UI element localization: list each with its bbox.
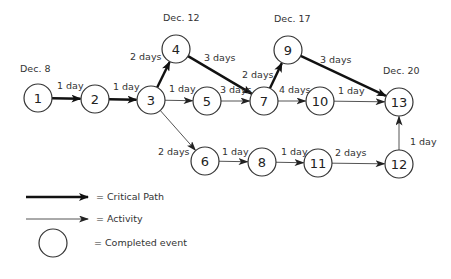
- event-node-8: 8: [248, 148, 276, 176]
- edge-duration-label-8-11: 1 day: [281, 146, 308, 157]
- event-node-13: 13: [385, 88, 413, 116]
- critical-path-arrow-3-4: [157, 62, 169, 87]
- edge-duration-label-3-5: 1 day: [169, 83, 196, 94]
- event-number: 3: [147, 93, 155, 108]
- event-node-6: 6: [191, 147, 219, 175]
- edge-duration-label-4-7: 3 days: [204, 52, 236, 63]
- event-node-10: 10: [306, 87, 334, 115]
- event-node-11: 11: [304, 149, 332, 177]
- legend-completed-event-circle-icon: [39, 229, 67, 257]
- event-number: 5: [203, 94, 211, 109]
- legend-completed-event-label: = Completed event: [94, 237, 187, 248]
- edge-duration-label-7-10: 4 days: [279, 84, 311, 95]
- legend-activity-label: = Activity: [96, 213, 143, 224]
- event-number: 7: [260, 94, 268, 109]
- dates-layer: Dec. 8Dec. 12Dec. 17Dec. 20: [20, 12, 420, 76]
- edge-duration-label-3-4: 2 days: [130, 51, 162, 62]
- date-label: Dec. 20: [383, 65, 420, 76]
- event-number: 10: [312, 94, 329, 109]
- edge-duration-label-7-9: 2 days: [242, 69, 274, 80]
- event-node-12: 12: [385, 150, 413, 178]
- critical-path-arrow-1-2: [52, 98, 81, 99]
- event-node-4: 4: [162, 35, 190, 63]
- edge-duration-label-10-13: 1 day: [338, 85, 365, 96]
- edge-duration-label-2-3: 1 day: [113, 81, 140, 92]
- event-number: 8: [258, 155, 266, 170]
- date-label: Dec. 12: [163, 12, 200, 23]
- edge-duration-label-12-13: 1 day: [410, 136, 437, 147]
- event-node-3: 3: [137, 86, 165, 114]
- activity-arrow-11-12: [332, 163, 385, 164]
- edge-duration-label-6-8: 1 day: [222, 146, 249, 157]
- event-node-7: 7: [250, 87, 278, 115]
- event-number: 6: [201, 154, 209, 169]
- event-number: 11: [310, 156, 327, 171]
- event-node-2: 2: [81, 85, 109, 113]
- event-number: 2: [91, 92, 99, 107]
- edge-labels-layer: 1 day1 day2 days3 days1 day3 days2 days2…: [57, 51, 437, 158]
- legend: = Critical Path = Activity = Completed e…: [26, 191, 187, 257]
- activity-arrow-6-8: [219, 161, 248, 162]
- edge-duration-label-11-12: 2 days: [335, 147, 367, 158]
- event-number: 13: [391, 95, 408, 110]
- event-number: 4: [172, 42, 180, 57]
- date-label: Dec. 8: [20, 63, 50, 74]
- edge-duration-label-1-2: 1 day: [57, 80, 84, 91]
- activity-arrow-10-13: [334, 101, 385, 102]
- event-node-1: 1: [24, 84, 52, 112]
- legend-critical-path-label: = Critical Path: [96, 191, 164, 202]
- activity-arrow-3-6: [160, 110, 195, 150]
- event-number: 1: [34, 91, 42, 106]
- event-number: 12: [391, 157, 408, 172]
- edge-duration-label-5-7: 3 days: [220, 84, 252, 95]
- event-node-9: 9: [274, 36, 302, 64]
- date-label: Dec. 17: [274, 13, 311, 24]
- event-number: 9: [284, 43, 292, 58]
- pert-diagram: 1 day1 day2 days3 days1 day3 days2 days2…: [0, 0, 451, 279]
- edge-duration-label-9-13: 3 days: [320, 54, 352, 65]
- edge-duration-label-3-6: 2 days: [158, 146, 190, 157]
- event-node-5: 5: [193, 87, 221, 115]
